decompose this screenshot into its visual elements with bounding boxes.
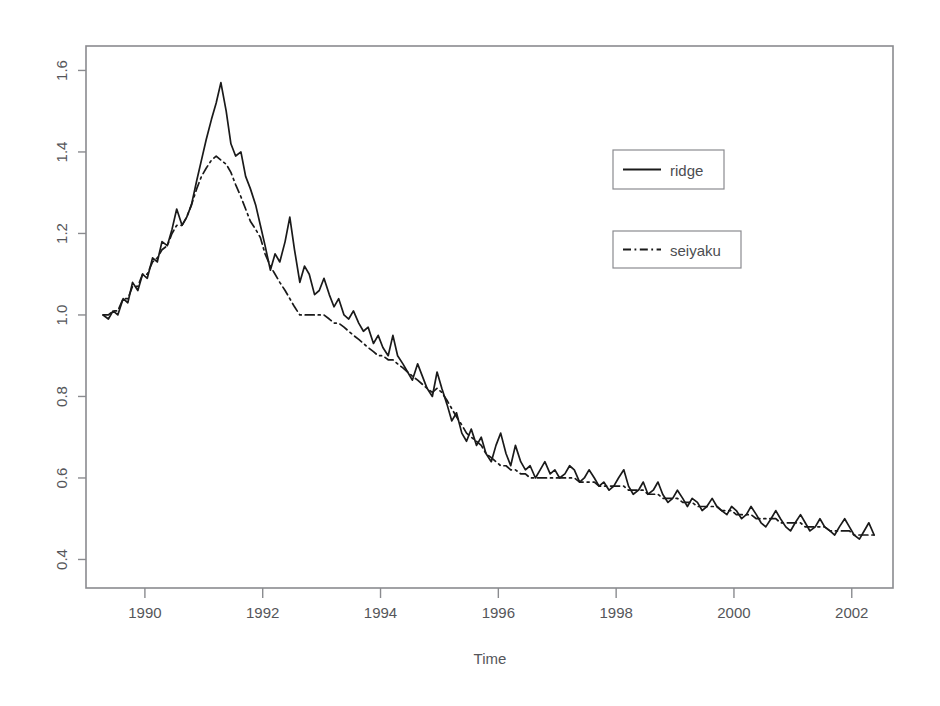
x-axis-title: Time xyxy=(474,650,507,667)
y-axis-tick-label: 1.6 xyxy=(54,60,71,81)
y-axis-tick-label: 0.8 xyxy=(54,386,71,407)
x-axis-tick-label: 2000 xyxy=(717,604,750,621)
x-axis-tick-label: 1998 xyxy=(599,604,632,621)
x-axis-tick-label: 2002 xyxy=(835,604,868,621)
plot-background xyxy=(0,0,940,706)
legend-label-ridge: ridge xyxy=(670,162,703,179)
x-axis-tick-label: 1990 xyxy=(128,604,161,621)
y-axis-tick-label: 0.4 xyxy=(54,549,71,570)
x-axis-tick-label: 1994 xyxy=(364,604,397,621)
time-series-plot: 0.40.60.81.01.21.41.6 199019921994199619… xyxy=(0,0,940,706)
y-axis-tick-label: 1.2 xyxy=(54,223,71,244)
x-axis-tick-label: 1996 xyxy=(482,604,515,621)
y-axis-tick-label: 1.0 xyxy=(54,305,71,326)
chart-page: 0.40.60.81.01.21.41.6 199019921994199619… xyxy=(0,0,940,706)
x-axis-tick-label: 1992 xyxy=(246,604,279,621)
y-axis-tick-label: 0.6 xyxy=(54,468,71,489)
legend-label-seiyaku: seiyaku xyxy=(670,242,721,259)
y-axis-tick-label: 1.4 xyxy=(54,142,71,163)
